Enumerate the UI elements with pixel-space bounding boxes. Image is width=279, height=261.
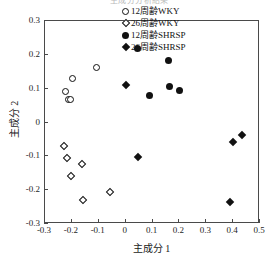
x-tick (98, 219, 99, 223)
y-tick (44, 88, 48, 89)
legend-marker-open-circle-icon (120, 6, 131, 17)
data-point-filled-diamond (238, 131, 246, 139)
data-point-filled-circle (146, 92, 153, 99)
data-point-open-diamond (78, 196, 86, 204)
data-point-open-diamond (78, 160, 86, 168)
x-tick (232, 219, 233, 223)
data-point-open-circle (93, 64, 100, 71)
y-tick (44, 54, 48, 55)
legend-marker-filled-diamond-icon (120, 42, 131, 53)
x-tick-label: 0.1 (137, 225, 167, 236)
y-tick (44, 189, 48, 190)
filled-circle-icon (122, 32, 129, 39)
x-tick-label: 0.4 (217, 225, 247, 236)
y-tick (44, 155, 48, 156)
legend: 12周齢WKY26周齢WKY12周齢SHRSP26周齢SHRSP (118, 4, 188, 54)
open-circle-icon (122, 8, 129, 15)
legend-item-label: 26周齢SHRSP (131, 42, 186, 53)
y-tick (44, 223, 48, 224)
data-point-filled-circle (176, 87, 183, 94)
x-tick-label: 0.2 (163, 225, 193, 236)
legend-item-label: 12周齢WKY (131, 6, 180, 17)
data-point-open-circle (62, 88, 69, 95)
x-axis-title: 主成分 1 (44, 240, 259, 255)
y-axis-title: 主成分 2 (6, 70, 21, 170)
legend-item: 26周齢WKY (120, 17, 186, 29)
x-tick (259, 219, 260, 223)
legend-item: 12周齢WKY (120, 5, 186, 17)
legend-item: 26周齢SHRSP (120, 41, 186, 53)
x-tick-label: -0.2 (56, 225, 86, 236)
y-tick-label: 0.3 (0, 16, 40, 25)
x-tick (125, 219, 126, 223)
legend-item: 12周齢SHRSP (120, 29, 186, 41)
x-tick-label: 0.5 (244, 225, 274, 236)
data-point-open-diamond (60, 142, 68, 150)
data-point-filled-diamond (133, 152, 141, 160)
legend-item-label: 12周齢SHRSP (131, 30, 186, 41)
x-tick-label: 0.3 (190, 225, 220, 236)
legend-marker-open-diamond-icon (120, 18, 131, 29)
legend-item-label: 26周齢WKY (131, 18, 180, 29)
x-tick (205, 219, 206, 223)
pca-scatter-figure: 主成分分析結果 -0.3-0.2-0.100.10.20.30.40.5 0.3… (0, 0, 279, 261)
data-point-filled-diamond (121, 81, 129, 89)
x-tick (178, 219, 179, 223)
data-point-open-diamond (63, 154, 71, 162)
data-point-open-diamond (105, 188, 113, 196)
data-point-filled-diamond (226, 197, 234, 205)
data-point-open-diamond (67, 172, 75, 180)
x-tick (71, 219, 72, 223)
data-point-filled-circle (165, 57, 172, 64)
data-point-filled-circle (166, 83, 173, 90)
data-point-open-circle (69, 75, 76, 82)
x-tick (152, 219, 153, 223)
data-point-open-circle (67, 96, 74, 103)
data-point-filled-diamond (229, 138, 237, 146)
y-tick-label: -0.2 (0, 185, 40, 194)
legend-marker-filled-circle-icon (120, 30, 131, 41)
x-tick-label: 0 (110, 225, 140, 236)
filled-diamond-icon (121, 43, 129, 51)
y-tick (44, 20, 48, 21)
open-diamond-icon (121, 19, 129, 27)
y-tick (44, 122, 48, 123)
y-tick-label: -0.3 (0, 219, 40, 228)
y-tick-label: 0.2 (0, 50, 40, 59)
x-tick-label: -0.1 (83, 225, 113, 236)
